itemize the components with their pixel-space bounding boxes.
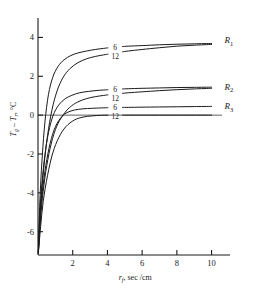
y-axis-title: Tg – Tr, °C — [9, 102, 19, 137]
y-tick-label: -6 — [27, 227, 34, 237]
x-tick-label: 2 — [71, 258, 75, 268]
curve-inline-label-R1-12: 12 — [111, 52, 119, 61]
line-chart: 246810420-2-4-6612R1612R2612R3rf, sec /c… — [0, 0, 255, 290]
x-tick-label: 6 — [140, 258, 144, 268]
x-tick-label: 10 — [207, 258, 216, 268]
x-axis-title: rf, sec /cm — [119, 273, 153, 283]
curve-inline-label-R2-12: 12 — [111, 94, 119, 103]
group-label-R1: R1 — [224, 35, 234, 46]
x-tick-label: 4 — [105, 258, 110, 268]
group-label-R2: R2 — [224, 82, 234, 93]
curve-inline-label-R1-6: 6 — [113, 43, 117, 52]
y-tick-label: -4 — [27, 188, 35, 198]
group-label-R3: R3 — [224, 101, 234, 112]
curve-R2-12 — [38, 95, 108, 253]
curve-inline-label-R3-6: 6 — [113, 103, 117, 112]
x-tick-label: 8 — [175, 258, 179, 268]
curve-inline-label-R3-12: 12 — [111, 112, 119, 121]
y-tick-label: 2 — [30, 71, 34, 81]
y-tick-label: -2 — [27, 149, 34, 159]
y-tick-label: 4 — [30, 32, 35, 42]
curve-R2-12 — [123, 88, 212, 93]
curve-R3-12 — [38, 115, 108, 253]
y-tick-label: 0 — [30, 110, 34, 120]
figure-container: 246810420-2-4-6612R1612R2612R3rf, sec /c… — [0, 0, 255, 290]
curve-R3-6 — [123, 106, 212, 107]
